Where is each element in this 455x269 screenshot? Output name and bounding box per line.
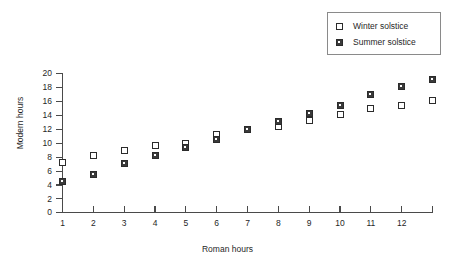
x-tick-label: 5 [178,219,194,228]
x-tick-label: 2 [85,219,101,228]
y-tick-label: 18 [36,83,52,92]
y-tick-label: 8 [36,153,52,162]
y-tick-label: 0 [36,208,52,217]
data-point-winter [367,105,374,112]
data-point-summer [182,144,189,151]
data-point-summer [398,83,405,90]
x-tick-label: 8 [270,219,286,228]
data-point-winter [90,152,97,159]
x-tick-label: 1 [55,219,71,228]
y-axis-title: Modern hours [15,83,25,163]
y-tick-label: 14 [36,111,52,120]
y-tick-label: 16 [36,97,52,106]
y-tick-label: 10 [36,139,52,148]
scatter-chart-figure: 20 18 16 14 12 10 8 6 4 2 0 1 2 3 4 5 6 … [0,0,455,269]
data-point-summer [367,91,374,98]
legend-label: Summer solstice [353,38,416,47]
data-point-winter [337,111,344,118]
x-tick-label: 3 [116,219,132,228]
data-point-summer [121,160,128,167]
data-point-summer [213,136,220,143]
legend-label: Winter solstice [353,22,408,31]
data-point-winter [398,102,405,109]
legend-item-winter-solstice: Winter solstice [336,20,408,33]
x-tick-label: 6 [209,219,225,228]
x-tick-label: 4 [147,219,163,228]
data-point-winter [59,159,66,166]
y-tick-label: 2 [36,195,52,204]
x-tick-label: 12 [394,219,410,228]
x-tick-label: 10 [332,219,348,228]
y-tick-label: 12 [36,125,52,134]
data-point-winter [429,97,436,104]
x-tick-label: 11 [363,219,379,228]
data-point-summer [306,110,313,117]
data-point-summer [59,178,66,185]
chart-legend: Winter solstice Summer solstice [327,12,441,55]
y-tick-label: 6 [36,167,52,176]
data-point-winter [306,117,313,124]
data-point-summer [337,102,344,109]
data-point-summer [275,118,282,125]
y-tick-label: 20 [36,69,52,78]
data-point-summer [152,152,159,159]
x-axis-title: Roman hours [0,244,455,254]
data-point-winter [152,142,159,149]
data-point-summer [244,126,251,133]
data-point-summer [429,76,436,83]
open-square-icon [336,23,343,30]
legend-item-summer-solstice: Summer solstice [336,36,416,49]
hatched-square-icon [336,39,343,46]
data-point-winter [121,147,128,154]
y-tick-label: 4 [36,181,52,190]
y-axis-ticks [56,74,63,213]
data-point-summer [90,171,97,178]
x-axis-ticks [63,206,433,213]
x-tick-label: 7 [240,219,256,228]
x-tick-label: 9 [301,219,317,228]
